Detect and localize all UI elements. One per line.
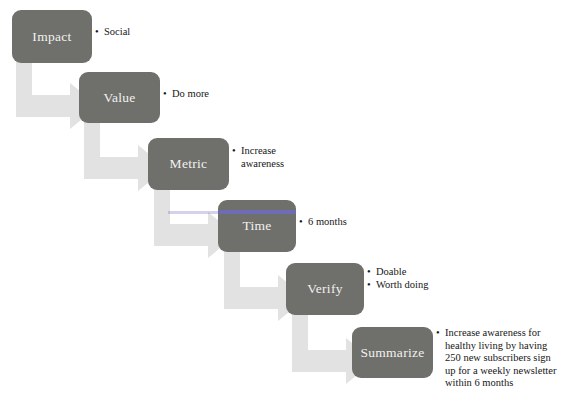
step-box-impact[interactable]: Impact bbox=[12, 10, 92, 63]
step-box-metric[interactable]: Metric bbox=[148, 138, 229, 190]
bullet-item: Increase awareness bbox=[232, 145, 304, 170]
step-box-summarize[interactable]: Summarize bbox=[352, 327, 433, 378]
step-label-value: Value bbox=[103, 91, 135, 105]
scan-artifact-streak bbox=[219, 210, 296, 214]
annotation-metric: Increase awareness bbox=[232, 145, 304, 170]
bullet-item: Worth doing bbox=[367, 279, 437, 292]
step-label-summarize: Summarize bbox=[360, 346, 424, 360]
step-label-impact: Impact bbox=[32, 30, 71, 44]
bullet-item: Do more bbox=[163, 88, 263, 101]
diagram-canvas: Impact Value Metric Time Verify Summariz… bbox=[0, 0, 565, 405]
bullet-item: Doable bbox=[367, 266, 437, 279]
bullet-item: Social bbox=[95, 26, 185, 39]
step-label-verify: Verify bbox=[307, 282, 343, 296]
annotation-summarize: Increase awareness for healthy living by… bbox=[436, 327, 562, 390]
annotation-verify: Doable Worth doing bbox=[367, 266, 437, 292]
step-box-value[interactable]: Value bbox=[79, 72, 160, 123]
step-label-time: Time bbox=[242, 219, 271, 233]
step-label-metric: Metric bbox=[170, 157, 208, 171]
bullet-item: 6 months bbox=[299, 216, 389, 229]
annotation-time: 6 months bbox=[299, 216, 389, 229]
scan-artifact-streak-faint bbox=[168, 211, 220, 214]
annotation-impact: Social bbox=[95, 26, 185, 39]
step-box-time[interactable]: Time bbox=[218, 200, 296, 252]
bullet-item: Increase awareness for healthy living by… bbox=[436, 327, 562, 390]
step-box-verify[interactable]: Verify bbox=[286, 263, 364, 315]
annotation-value: Do more bbox=[163, 88, 263, 101]
